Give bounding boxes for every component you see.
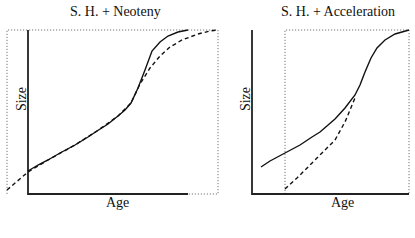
dotted-frame-acceleration — [285, 30, 409, 194]
growth-curves-diagram — [0, 0, 415, 238]
solid-curve-neoteny — [28, 30, 188, 171]
solid-curve-acceleration — [261, 30, 409, 167]
axes-acceleration — [252, 30, 409, 194]
dashed-curve-neoteny — [7, 30, 218, 190]
dotted-frame-neoteny — [7, 30, 218, 194]
dashed-curve-acceleration — [285, 98, 355, 189]
axes-neoteny — [28, 30, 188, 194]
